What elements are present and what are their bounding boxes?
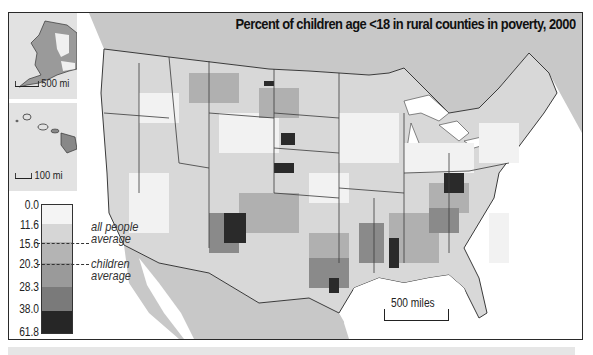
legend-swatch-5 <box>41 311 73 334</box>
children-average-line <box>37 264 89 265</box>
all-people-average-line <box>37 243 89 244</box>
main-scale-bar <box>384 309 449 321</box>
hawaii-inset: 100 mi <box>9 103 79 191</box>
alaska-inset: 500 mi <box>9 13 79 99</box>
all-people-average-label: all people average <box>91 221 138 245</box>
legend-swatch-3 <box>41 263 73 287</box>
legend-break-6: 61.8 <box>14 326 40 338</box>
legend-swatch-2 <box>41 242 73 263</box>
alaska-scale: 500 mi <box>15 77 69 89</box>
legend-break-2: 15.6 <box>14 238 40 250</box>
legend-break-5: 38.0 <box>14 303 40 315</box>
children-average-label: children average <box>91 258 131 282</box>
hawaii-shape <box>9 103 77 163</box>
legend-break-4: 28.3 <box>14 281 40 293</box>
alaska-scale-label: 500 mi <box>41 77 69 89</box>
legend-swatch-0 <box>41 204 73 224</box>
scale-bar <box>15 173 32 179</box>
bottom-strip <box>8 347 575 355</box>
legend-break-3: 20.3 <box>14 258 40 270</box>
map-title: Percent of children age <18 in rural cou… <box>236 15 576 32</box>
map-frame: Percent of children age <18 in rural cou… <box>8 12 583 340</box>
hawaii-scale: 100 mi <box>15 169 63 181</box>
legend: 0.0 11.6 15.6 20.3 28.3 38.0 61.8 all pe… <box>9 199 159 339</box>
legend-swatch-1 <box>41 224 73 242</box>
legend-break-1: 11.6 <box>14 219 40 231</box>
legend-swatch-4 <box>41 287 73 311</box>
hawaii-scale-label: 100 mi <box>35 169 63 181</box>
legend-break-0: 0.0 <box>14 199 40 211</box>
main-scale-label: 500 miles <box>391 296 435 310</box>
scale-bar <box>15 81 39 87</box>
